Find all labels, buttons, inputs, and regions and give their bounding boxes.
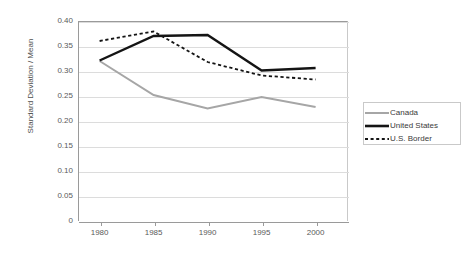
legend-item-u-s-border[interactable]: U.S. Border (364, 132, 462, 145)
y-axis-title: Standard Deviation / Mean (25, 26, 37, 146)
y-axis-tick-label: 0.15 (40, 142, 73, 150)
gridline (79, 222, 349, 223)
legend-swatch-icon (364, 120, 390, 132)
series-line-u-s-border (100, 32, 316, 80)
y-axis-tick-label: 0.10 (40, 167, 73, 175)
y-axis-tick-label: 0 (40, 217, 73, 225)
legend-item-united-states[interactable]: United States (364, 119, 462, 132)
legend-swatch-icon (364, 107, 390, 119)
legend-swatch-icon (364, 133, 390, 145)
y-axis-tick-label: 0.20 (40, 117, 73, 125)
legend-label: United States (390, 121, 438, 130)
x-axis-tick-label: 1980 (80, 229, 120, 237)
x-axis-tick-label: 1995 (242, 229, 282, 237)
legend-item-canada[interactable]: Canada (364, 106, 462, 119)
y-axis-tick-label: 0.05 (40, 192, 73, 200)
chart-container: Standard Deviation / Mean 0.400.350.300.… (0, 0, 471, 256)
legend-label: U.S. Border (390, 134, 432, 143)
legend: CanadaUnited StatesU.S. Border (363, 102, 461, 145)
x-axis-tick (263, 222, 264, 226)
x-axis-tick-label: 1985 (134, 229, 174, 237)
y-axis-tick-label: 0.40 (40, 17, 73, 25)
x-axis-tick (101, 222, 102, 226)
x-axis-tick (155, 222, 156, 226)
series-line-canada (100, 61, 316, 109)
series-line-united-states (100, 35, 316, 71)
legend-label: Canada (390, 108, 418, 117)
y-axis-tick-label: 0.35 (40, 42, 73, 50)
x-axis-tick (317, 222, 318, 226)
y-axis-tick-label: 0.30 (40, 67, 73, 75)
series-lines (78, 21, 348, 221)
x-axis-tick-label: 2000 (296, 229, 336, 237)
x-axis-tick-label: 1990 (188, 229, 228, 237)
x-axis-tick (209, 222, 210, 226)
y-axis-tick-label: 0.25 (40, 92, 73, 100)
